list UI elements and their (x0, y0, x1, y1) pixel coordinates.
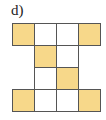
empty-cell (34, 67, 57, 90)
figure-label: d) (11, 2, 24, 19)
filled-cell (12, 89, 35, 112)
filled-cell (12, 23, 35, 46)
empty-cell (56, 23, 79, 46)
empty-cell (56, 45, 79, 68)
filled-cell (34, 45, 57, 68)
filled-cell (78, 89, 101, 112)
empty-cell (34, 23, 57, 46)
empty-cell (34, 89, 57, 112)
filled-cell (78, 23, 101, 46)
empty-cell (56, 89, 79, 112)
filled-cell (56, 67, 79, 90)
